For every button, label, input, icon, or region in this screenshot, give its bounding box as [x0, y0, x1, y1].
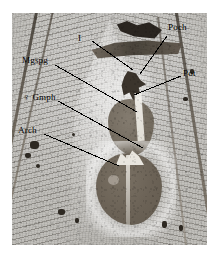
annotation-label-pot: Pot: [183, 68, 196, 78]
annotation-label-mgspg: Mgspg: [22, 55, 48, 65]
leader-line-mgspg: [55, 65, 137, 112]
leader-line-arch: [44, 134, 119, 166]
figure-micrograph: IMgspg♀ GmphArchPochPot: [0, 0, 213, 256]
leader-line-poch: [140, 36, 167, 74]
annotation-label-arch: Arch: [18, 125, 37, 135]
annotation-label-text: Arch: [18, 125, 37, 135]
annotation-label-text: Poch: [168, 22, 187, 32]
female-symbol-icon: ♀: [23, 92, 30, 102]
leader-line-pot: [134, 76, 181, 95]
annotation-label-text: I: [78, 33, 81, 43]
annotation-label-poch: Poch: [168, 22, 187, 32]
annotation-label-i: I: [78, 33, 81, 43]
annotation-label-text: Mgspg: [22, 55, 48, 65]
annotation-label-text: Pot: [183, 68, 196, 78]
annotation-label-text: Gmph: [32, 92, 55, 102]
annotation-label-gmph: ♀ Gmph: [23, 92, 56, 102]
leader-line-i: [92, 41, 133, 70]
